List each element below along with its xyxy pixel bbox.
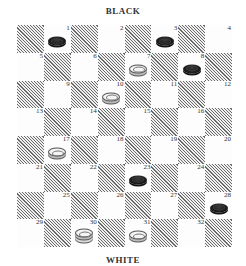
board-square-hatched bbox=[98, 164, 125, 192]
square-number: 10 bbox=[117, 81, 124, 88]
board-square-hatched bbox=[125, 192, 152, 220]
board-square-5[interactable]: 5 bbox=[17, 53, 44, 81]
board-square-1[interactable]: 1 bbox=[44, 25, 71, 53]
board-square-4[interactable]: 4 bbox=[205, 25, 232, 53]
board-square-hatched bbox=[98, 219, 125, 247]
square-number: 14 bbox=[90, 108, 97, 115]
square-number: 1 bbox=[66, 25, 70, 32]
board-square-23[interactable]: 23 bbox=[125, 164, 152, 192]
board-square-11[interactable]: 11 bbox=[151, 81, 178, 109]
black-checker-piece[interactable] bbox=[183, 64, 201, 73]
white-side-label: WHITE bbox=[0, 255, 246, 265]
square-number: 9 bbox=[66, 81, 70, 88]
board-square-15[interactable]: 15 bbox=[125, 108, 152, 136]
board-square-31[interactable]: 31 bbox=[125, 219, 152, 247]
board-square-7[interactable]: 7 bbox=[125, 53, 152, 81]
board-square-hatched bbox=[178, 81, 205, 109]
board-square-hatched bbox=[71, 81, 98, 109]
board-square-hatched bbox=[17, 81, 44, 109]
board-square-hatched bbox=[125, 136, 152, 164]
square-number: 20 bbox=[224, 136, 231, 143]
board-square-hatched bbox=[178, 192, 205, 220]
board-square-hatched bbox=[98, 53, 125, 81]
square-number: 29 bbox=[36, 219, 43, 226]
board-square-12[interactable]: 12 bbox=[205, 81, 232, 109]
board-square-hatched bbox=[44, 53, 71, 81]
square-number: 8 bbox=[201, 53, 205, 60]
board-square-29[interactable]: 29 bbox=[17, 219, 44, 247]
board-square-14[interactable]: 14 bbox=[71, 108, 98, 136]
board-square-hatched bbox=[44, 219, 71, 247]
board-square-hatched bbox=[98, 108, 125, 136]
board-square-26[interactable]: 26 bbox=[98, 192, 125, 220]
board-square-hatched bbox=[17, 192, 44, 220]
board-square-18[interactable]: 18 bbox=[98, 136, 125, 164]
board-square-hatched bbox=[151, 108, 178, 136]
board-square-8[interactable]: 8 bbox=[178, 53, 205, 81]
board-square-19[interactable]: 19 bbox=[151, 136, 178, 164]
square-number: 11 bbox=[171, 81, 178, 88]
board-square-hatched bbox=[71, 25, 98, 53]
square-number: 5 bbox=[39, 53, 43, 60]
board-square-hatched bbox=[205, 53, 232, 81]
board-square-hatched bbox=[71, 192, 98, 220]
square-number: 7 bbox=[147, 53, 151, 60]
square-number: 27 bbox=[170, 192, 177, 199]
square-number: 25 bbox=[63, 192, 70, 199]
board-square-25[interactable]: 25 bbox=[44, 192, 71, 220]
square-number: 28 bbox=[224, 192, 231, 199]
white-checker-piece[interactable] bbox=[102, 92, 120, 101]
square-number: 30 bbox=[90, 219, 97, 226]
black-checker-piece[interactable] bbox=[210, 203, 228, 212]
board-square-hatched bbox=[178, 25, 205, 53]
square-number: 22 bbox=[90, 164, 97, 171]
square-number: 31 bbox=[143, 219, 150, 226]
board-square-16[interactable]: 16 bbox=[178, 108, 205, 136]
square-number: 23 bbox=[143, 164, 150, 171]
board-square-22[interactable]: 22 bbox=[71, 164, 98, 192]
board-square-32[interactable]: 32 bbox=[178, 219, 205, 247]
board-square-10[interactable]: 10 bbox=[98, 81, 125, 109]
black-checker-piece[interactable] bbox=[156, 37, 174, 46]
square-number: 12 bbox=[224, 81, 231, 88]
board-square-hatched bbox=[178, 136, 205, 164]
black-checker-piece[interactable] bbox=[129, 175, 147, 184]
board-square-21[interactable]: 21 bbox=[17, 164, 44, 192]
square-number: 19 bbox=[170, 136, 177, 143]
board-square-hatched bbox=[125, 25, 152, 53]
board-square-hatched bbox=[205, 164, 232, 192]
square-number: 2 bbox=[120, 25, 124, 32]
square-number: 3 bbox=[174, 25, 178, 32]
board-square-3[interactable]: 3 bbox=[151, 25, 178, 53]
white-checker-piece[interactable] bbox=[129, 231, 147, 240]
black-checker-piece[interactable] bbox=[48, 37, 66, 46]
white-checker-piece[interactable] bbox=[129, 64, 147, 73]
square-number: 32 bbox=[197, 219, 204, 226]
board-square-27[interactable]: 27 bbox=[151, 192, 178, 220]
board-square-13[interactable]: 13 bbox=[17, 108, 44, 136]
board-square-17[interactable]: 17 bbox=[44, 136, 71, 164]
square-number: 15 bbox=[143, 108, 150, 115]
board-square-20[interactable]: 20 bbox=[205, 136, 232, 164]
square-number: 13 bbox=[36, 108, 43, 115]
board-square-28[interactable]: 28 bbox=[205, 192, 232, 220]
board-square-hatched bbox=[44, 164, 71, 192]
board-square-6[interactable]: 6 bbox=[71, 53, 98, 81]
square-number: 16 bbox=[197, 108, 204, 115]
board-square-30[interactable]: 30 bbox=[71, 219, 98, 247]
board-square-hatched bbox=[125, 81, 152, 109]
white-checker-piece[interactable] bbox=[48, 148, 66, 157]
square-number: 6 bbox=[93, 53, 97, 60]
board-square-hatched bbox=[151, 219, 178, 247]
board-square-2[interactable]: 2 bbox=[98, 25, 125, 53]
board-square-24[interactable]: 24 bbox=[178, 164, 205, 192]
square-number: 4 bbox=[228, 25, 232, 32]
board-square-hatched bbox=[151, 164, 178, 192]
white-king-piece[interactable] bbox=[75, 229, 93, 238]
square-number: 17 bbox=[63, 136, 70, 143]
black-side-label: BLACK bbox=[0, 6, 246, 16]
board-square-hatched bbox=[205, 219, 232, 247]
checkers-board: 1234567891011121314151617181920212223242… bbox=[17, 25, 232, 247]
board-square-9[interactable]: 9 bbox=[44, 81, 71, 109]
board-square-hatched bbox=[17, 136, 44, 164]
